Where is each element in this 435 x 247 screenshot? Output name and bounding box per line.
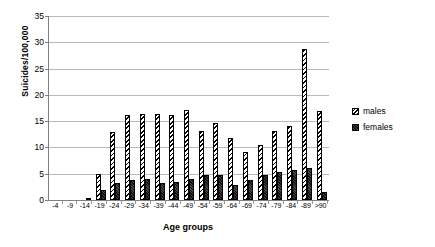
legend-item-females: females <box>352 122 393 132</box>
x-tick-label: -39 <box>151 202 166 209</box>
bar-groups <box>49 16 329 200</box>
x-tick-label: -9 <box>63 202 78 209</box>
x-tick-label: -49 <box>181 202 196 209</box>
bar-group <box>226 16 241 200</box>
y-tick-label: 15 <box>35 116 44 126</box>
y-tick-label: 0 <box>39 195 44 205</box>
x-tick-label: -34 <box>136 202 151 209</box>
x-axis-title: Age groups <box>48 222 328 232</box>
bar-females--34 <box>145 179 150 200</box>
x-tick-label: >90 <box>313 202 328 209</box>
x-tick-label: -74 <box>254 202 269 209</box>
bar-group <box>167 16 182 200</box>
bar-group <box>314 16 329 200</box>
bar-females--74 <box>263 175 268 200</box>
x-tick-label: -19 <box>92 202 107 209</box>
bar-females--54 <box>204 175 209 200</box>
bar-females--89 <box>307 168 312 200</box>
y-tick-label: 20 <box>35 90 44 100</box>
bar-females--59 <box>218 175 223 200</box>
bar-females--44 <box>174 182 179 200</box>
bar-group <box>152 16 167 200</box>
bar-group <box>108 16 123 200</box>
bar-group <box>137 16 152 200</box>
y-axis-title: Suicides/100,000 <box>20 0 30 126</box>
bar-females--49 <box>189 179 194 200</box>
bar-group <box>78 16 93 200</box>
bar-group <box>123 16 138 200</box>
bar-group <box>285 16 300 200</box>
x-axis-tick-labels: -4-9-14-19-24-29-34-39-44-49-54-59-64-69… <box>48 202 328 209</box>
legend-item-males: males <box>352 106 393 116</box>
bar-group <box>270 16 285 200</box>
bar-group <box>196 16 211 200</box>
bar-females--84 <box>292 170 297 200</box>
bar-females->90 <box>322 192 327 200</box>
bar-females--24 <box>115 183 120 200</box>
suicide-rate-bar-chart: Suicides/100,000 05101520253035 -4-9-14-… <box>0 0 435 247</box>
bar-females--39 <box>160 183 165 200</box>
legend-swatch-females <box>352 124 359 131</box>
x-tick-label: -24 <box>107 202 122 209</box>
bar-group <box>241 16 256 200</box>
x-tick-label: -64 <box>225 202 240 209</box>
bar-group <box>299 16 314 200</box>
x-tick-label: -79 <box>269 202 284 209</box>
y-tick-label: 10 <box>35 142 44 152</box>
x-tick-label: -4 <box>48 202 63 209</box>
x-tick-label: -14 <box>77 202 92 209</box>
x-tick-label: -44 <box>166 202 181 209</box>
x-tick-label: -89 <box>298 202 313 209</box>
x-tick-label: -84 <box>284 202 299 209</box>
y-tick-label: 25 <box>35 64 44 74</box>
bar-females--19 <box>101 190 106 201</box>
legend-label: females <box>363 122 393 132</box>
bar-females--79 <box>277 172 282 200</box>
y-tick-label: 30 <box>35 37 44 47</box>
bar-females--64 <box>233 185 238 200</box>
x-tick-label: -69 <box>240 202 255 209</box>
bar-females--29 <box>130 180 135 200</box>
y-tick-label: 35 <box>35 11 44 21</box>
bar-females--69 <box>248 180 253 201</box>
x-tick-label: -54 <box>195 202 210 209</box>
legend-swatch-males <box>352 108 359 115</box>
bar-group <box>93 16 108 200</box>
x-tick-label: -29 <box>122 202 137 209</box>
bar-group <box>182 16 197 200</box>
bar-females--14 <box>86 198 91 200</box>
legend-label: males <box>363 106 386 116</box>
bar-group <box>255 16 270 200</box>
bar-group <box>64 16 79 200</box>
bar-males->90 <box>317 111 322 200</box>
plot-area: 05101520253035 <box>48 16 329 201</box>
x-tick-label: -59 <box>210 202 225 209</box>
bar-group <box>49 16 64 200</box>
bar-group <box>211 16 226 200</box>
chart-legend: malesfemales <box>352 106 393 138</box>
y-tick-label: 5 <box>39 169 44 179</box>
